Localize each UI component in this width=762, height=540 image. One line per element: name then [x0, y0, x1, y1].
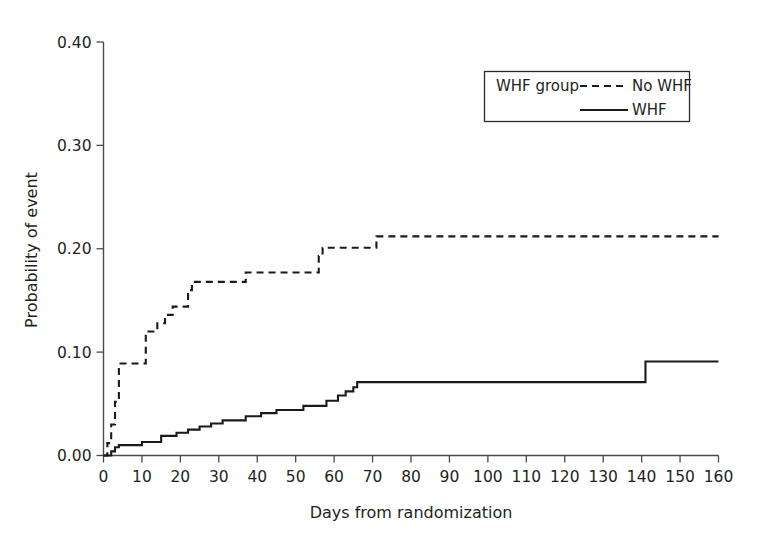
x-tick-label: 30: [209, 468, 229, 486]
kaplan-meier-figure: 0.000.100.200.300.40 0102030405060708090…: [0, 0, 762, 540]
legend-group-title: WHF group: [496, 77, 579, 95]
x-tick-label: 140: [627, 468, 657, 486]
x-tick-label: 70: [363, 468, 383, 486]
x-tick-label: 0: [99, 468, 109, 486]
x-tick-label: 110: [512, 468, 542, 486]
y-axis-title: Probability of event: [22, 172, 41, 328]
x-tick-label: 10: [132, 468, 152, 486]
y-tick-label: 0.40: [57, 34, 92, 52]
x-tick-label: 100: [473, 468, 503, 486]
x-tick-label: 60: [324, 468, 344, 486]
y-tick-label: 0.10: [57, 344, 92, 362]
legend: WHF group No WHF WHF: [485, 72, 692, 122]
y-tick-label: 0.00: [57, 447, 92, 465]
x-tick-label: 20: [171, 468, 191, 486]
x-tick-label: 90: [440, 468, 460, 486]
y-tick-label: 0.30: [57, 137, 92, 155]
x-tick-label: 160: [704, 468, 734, 486]
x-tick-label: 150: [665, 468, 695, 486]
x-tick-label: 130: [588, 468, 618, 486]
x-tick-label: 40: [247, 468, 267, 486]
chart-svg: 0.000.100.200.300.40 0102030405060708090…: [0, 0, 762, 540]
legend-label-no-whf: No WHF: [632, 77, 692, 95]
x-tick-label: 50: [286, 468, 306, 486]
y-tick-label: 0.20: [57, 240, 92, 258]
x-axis-title: Days from randomization: [310, 503, 513, 522]
x-tick-label: 80: [401, 468, 421, 486]
legend-label-whf: WHF: [632, 101, 667, 119]
x-tick-label: 120: [550, 468, 580, 486]
